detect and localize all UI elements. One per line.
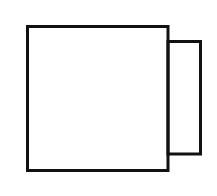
large-square	[28, 27, 169, 171]
small-rectangle	[168, 42, 201, 155]
diagram-canvas	[0, 0, 217, 196]
